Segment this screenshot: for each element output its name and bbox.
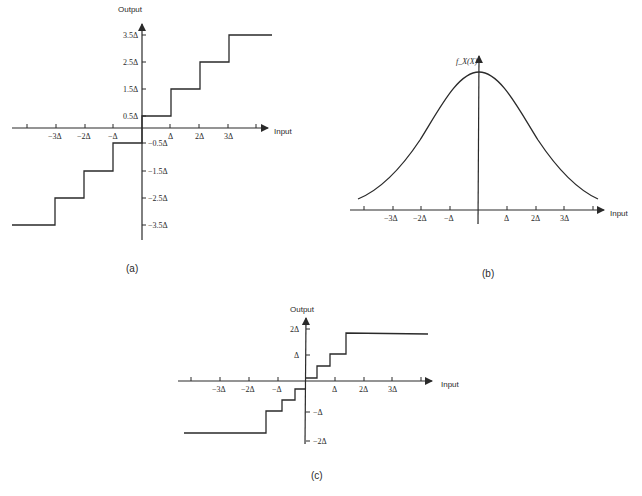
c-xtick-label: 3Δ — [388, 385, 397, 394]
b-xtick-label: Δ — [504, 214, 509, 223]
figure-b-pdf: f_X(X) Input −3Δ −2Δ −Δ Δ 2Δ 3Δ (b) — [350, 56, 629, 279]
b-y-axis — [478, 56, 479, 224]
a-x-axis-label: Input — [274, 127, 293, 136]
b-xtick-label: −3Δ — [384, 214, 398, 223]
c-xtick-label: −Δ — [272, 385, 282, 394]
b-y-axis-label: f_X(X) — [456, 57, 478, 66]
a-xtick-label: −2Δ — [77, 132, 91, 141]
c-staircase-curve-negative — [184, 389, 306, 433]
c-staircase-curve-positive — [306, 333, 428, 378]
c-y-ticks — [306, 329, 310, 441]
c-y-axis-label: Output — [290, 305, 315, 314]
c-ytick-label: Δ — [294, 351, 299, 360]
a-xtick-label: −Δ — [108, 132, 118, 141]
figure-a-uniform-quantizer: Output Input −3Δ −2Δ −Δ Δ 2Δ 3Δ 3.5Δ 2.5… — [12, 5, 293, 274]
b-xtick-label: 2Δ — [531, 214, 540, 223]
c-ytick-label: −2Δ — [313, 437, 327, 446]
a-xtick-label: −3Δ — [48, 132, 62, 141]
c-xtick-label: Δ — [332, 385, 337, 394]
a-ytick-label: 3.5Δ — [123, 31, 138, 40]
b-x-axis-label: Input — [610, 209, 629, 218]
figure-canvas: Output Input −3Δ −2Δ −Δ Δ 2Δ 3Δ 3.5Δ 2.5… — [0, 0, 642, 496]
a-xtick-label: 3Δ — [224, 132, 233, 141]
a-ytick-label: 0.5Δ — [123, 112, 138, 121]
a-ytick-label: 1.5Δ — [123, 85, 138, 94]
c-ytick-label: 2Δ — [290, 325, 299, 334]
b-caption: (b) — [482, 268, 494, 279]
c-x-axis-label: Input — [441, 380, 460, 389]
c-caption: (c) — [311, 470, 323, 481]
c-xtick-label: −2Δ — [241, 385, 255, 394]
c-y-axis — [305, 318, 306, 444]
c-xtick-label: −3Δ — [212, 385, 226, 394]
b-xtick-label: −2Δ — [413, 214, 427, 223]
a-caption: (a) — [126, 263, 138, 274]
a-ytick-label: −2.5Δ — [148, 194, 168, 203]
a-xtick-label: Δ — [168, 132, 173, 141]
a-xtick-label: 2Δ — [195, 132, 204, 141]
c-ytick-label: −Δ — [313, 408, 323, 417]
a-ytick-label: −1.5Δ — [148, 167, 168, 176]
c-xtick-label: 2Δ — [359, 385, 368, 394]
b-xtick-label: 3Δ — [560, 214, 569, 223]
figure-c-nonuniform-quantizer: Output Input −3Δ −2Δ −Δ Δ 2Δ 3Δ 2Δ Δ −Δ … — [178, 305, 460, 481]
a-y-axis-label: Output — [118, 5, 143, 14]
a-ytick-label: 2.5Δ — [123, 58, 138, 67]
b-xtick-label: −Δ — [444, 214, 454, 223]
a-ytick-label: −3.5Δ — [148, 221, 168, 230]
a-ytick-label: −0.5Δ — [148, 139, 168, 148]
